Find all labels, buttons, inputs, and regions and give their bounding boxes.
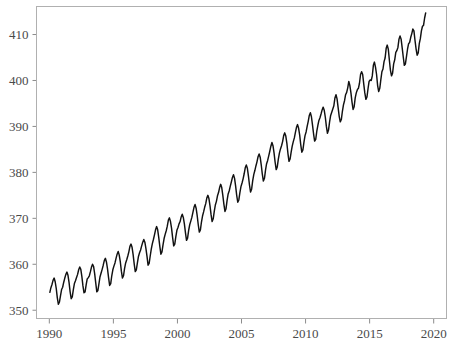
x-tick-label: 1990 [36, 326, 62, 341]
x-tick-label: 2010 [293, 326, 319, 341]
y-tick-label: 390 [9, 119, 29, 134]
y-tick-label: 370 [9, 211, 29, 226]
chart-figure: 350360370380390400410 199019952000200520… [0, 0, 462, 358]
y-tick-label: 400 [9, 73, 29, 88]
co2-line-chart: 350360370380390400410 199019952000200520… [0, 0, 462, 358]
x-tick-label: 2000 [164, 326, 190, 341]
y-tick-label: 410 [9, 27, 29, 42]
y-tick-label: 360 [9, 257, 29, 272]
y-tick-label: 350 [9, 303, 29, 318]
x-tick-label: 2015 [357, 326, 383, 341]
x-tick-label: 2005 [229, 326, 255, 341]
x-tick-label: 1995 [100, 326, 126, 341]
chart-background [0, 0, 462, 358]
x-tick-label: 2020 [421, 326, 447, 341]
y-tick-label: 380 [9, 165, 29, 180]
